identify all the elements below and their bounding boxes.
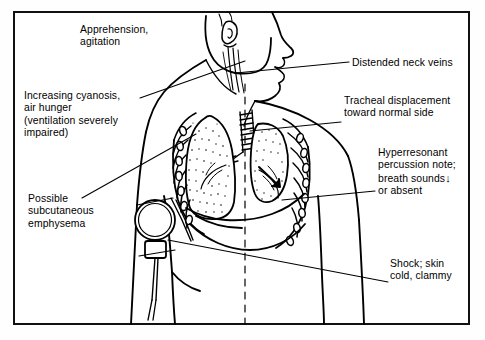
label-distended-neck-veins: Distended neck veins <box>352 57 453 69</box>
collapsed-lung-icon <box>251 124 288 203</box>
down-arrow-icon: ↓ <box>445 172 451 184</box>
label-tracheal-displacement: Tracheal displacement toward normal side <box>344 95 450 120</box>
figure-canvas: Apprehension, agitation Increasing cyano… <box>0 0 485 340</box>
head-profile-icon <box>205 12 293 101</box>
hyperresonant-line-1: Hyperresonant <box>378 147 447 158</box>
chest-drain-device-icon <box>135 198 175 320</box>
label-apprehension: Apprehension, agitation <box>80 24 148 49</box>
label-increasing-cyanosis: Increasing cyanosis, air hunger (ventila… <box>24 90 120 140</box>
normal-lung-icon <box>186 116 235 219</box>
hyperresonant-line-4: or absent <box>378 185 422 196</box>
label-shock-skin: Shock; skin cold, clammy <box>390 258 452 283</box>
hyperresonant-line-2: percussion note; <box>378 159 456 170</box>
leader-neck-veins <box>236 62 349 73</box>
label-hyperresonant-percussion: Hyperresonantpercussion note;breath soun… <box>378 147 456 198</box>
hyperresonant-line-3: breath sounds <box>378 173 445 184</box>
leader-cyanosis <box>140 61 245 98</box>
label-subcutaneous-emphysema: Possible subcutaneous emphysema <box>28 193 94 230</box>
torso-outline <box>131 60 364 324</box>
distended-neck-veins-icon <box>223 47 244 93</box>
